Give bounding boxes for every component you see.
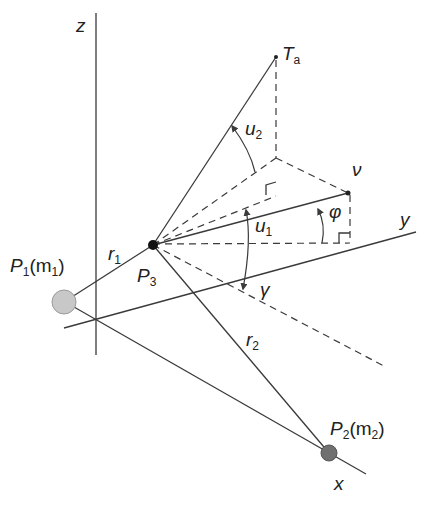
r2-label: r2 [246,329,259,353]
v-label: ν [352,159,362,180]
gamma-reference-line [153,245,384,366]
p2-label: P2(m2) [330,418,385,442]
right-angle-mark-ta [266,182,276,195]
r2-segment [153,245,329,453]
right-angle-mark-v [339,233,350,243]
ta-label: Ta [282,43,301,67]
p2-body [321,445,337,461]
three-body-geometry-diagram: z y x Ta ν u2 u1 φ γ r1 r2 P3 P1(m1) P2(… [0,0,425,506]
phi-arc [318,209,323,243]
ta-point [274,55,278,59]
y-axis-label: y [398,209,411,230]
gamma-label: γ [260,279,271,300]
r1-label: r1 [108,243,121,267]
p1-body [52,290,76,314]
u2-label: u2 [245,118,263,142]
p3-label: P3 [137,265,157,289]
v-point [346,191,351,196]
y-axis [64,232,416,328]
p3-body [148,240,158,250]
phi-label: φ [329,201,341,222]
p1-label: P1(m1) [10,255,65,279]
horizontal-reference-line [153,243,350,244]
z-axis-label: z [75,15,86,36]
u1-label: u1 [255,215,273,239]
x-axis-label: x [333,473,345,494]
ta-projection-to-v [276,158,348,193]
u1-arc [243,210,248,289]
